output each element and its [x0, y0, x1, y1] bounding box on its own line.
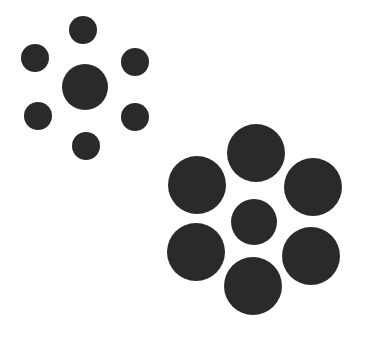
- surround-circle: [227, 124, 285, 182]
- surround-circle: [168, 156, 226, 214]
- small-surround-group: [21, 16, 149, 160]
- large-surround-group: [167, 124, 342, 315]
- surround-circle: [284, 158, 342, 216]
- surround-circle: [24, 102, 52, 130]
- surround-circle: [72, 132, 100, 160]
- ebbinghaus-figure: [0, 0, 365, 340]
- center-circle: [231, 199, 277, 245]
- surround-circle: [167, 223, 225, 281]
- surround-circle: [21, 44, 49, 72]
- surround-circle: [121, 48, 149, 76]
- center-circle: [62, 64, 108, 110]
- surround-circle: [121, 103, 149, 131]
- surround-circle: [69, 16, 97, 44]
- surround-circle: [282, 227, 340, 285]
- surround-circle: [224, 257, 282, 315]
